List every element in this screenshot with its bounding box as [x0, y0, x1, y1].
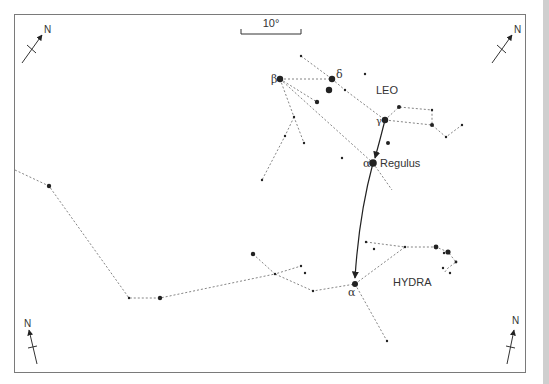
- compass-bottom-left: N: [24, 318, 37, 364]
- label-regulus: Regulus: [380, 157, 421, 169]
- label-gamma: γ: [376, 115, 382, 126]
- stars: [47, 55, 463, 342]
- pointer-arrows: [355, 120, 385, 278]
- star-gamma-leo: [382, 117, 388, 123]
- scale-bar: 10°: [241, 17, 301, 34]
- label-delta: δ: [336, 68, 343, 81]
- compass-top-left: N: [22, 24, 51, 63]
- star-beta-leo: [277, 76, 283, 82]
- north-icon: N: [512, 315, 519, 326]
- star-delta-leo: [329, 76, 335, 82]
- north-icon: N: [24, 318, 31, 329]
- star-chart: 10° N N N N: [0, 0, 549, 384]
- label-alpha-leo: α: [363, 157, 371, 170]
- north-icon: N: [44, 24, 51, 35]
- compass-bottom-right: N: [506, 315, 519, 364]
- scale-label: 10°: [263, 17, 280, 29]
- label-alpha-hya: α: [348, 286, 356, 299]
- constellation-label-hydra: HYDRA: [393, 276, 432, 288]
- compass-top-right: N: [492, 24, 521, 63]
- constellation-label-leo: LEO: [376, 84, 398, 96]
- label-beta: β: [271, 73, 277, 86]
- constellation-lines: [15, 56, 462, 341]
- north-icon: N: [514, 24, 521, 35]
